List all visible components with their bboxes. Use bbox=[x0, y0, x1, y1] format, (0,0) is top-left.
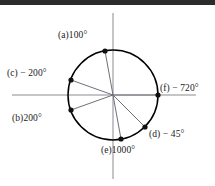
terminal-point-c bbox=[68, 77, 73, 82]
angle-label-e: (e)1000° bbox=[101, 146, 135, 156]
angle-label-d: (d) − 45° bbox=[149, 130, 184, 140]
terminal-point-e bbox=[118, 136, 123, 141]
radius-line-c bbox=[71, 80, 113, 95]
terminal-point-a bbox=[102, 48, 107, 53]
angle-label-b: (b)200° bbox=[12, 114, 42, 124]
angle-label-c: (c) − 200° bbox=[7, 69, 47, 79]
radius-line-a bbox=[105, 51, 113, 95]
radius-line-b bbox=[71, 95, 113, 110]
angle-circle-figure: (a)100°(b)200°(c) − 200°(d) − 45°(e)1000… bbox=[0, 0, 215, 186]
angle-label-a: (a)100° bbox=[58, 31, 87, 41]
terminal-point-d bbox=[142, 124, 147, 129]
angle-label-f: (f) − 720° bbox=[160, 84, 199, 94]
terminal-point-b bbox=[68, 107, 73, 112]
